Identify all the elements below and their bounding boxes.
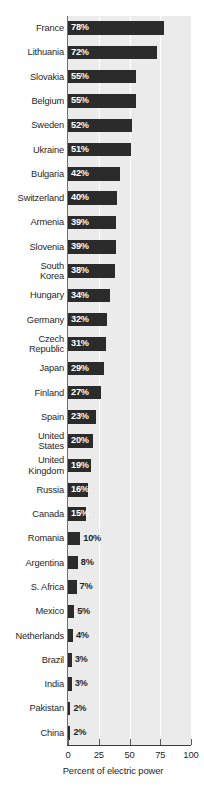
- x-axis-tickmark: [191, 739, 192, 745]
- bar-wrapper: 40%: [68, 186, 117, 210]
- bar-value-label: 78%: [68, 21, 89, 35]
- category-label: S. Africa: [0, 582, 64, 592]
- bar: 20%: [68, 434, 93, 448]
- bar-value-label: 52%: [68, 119, 89, 133]
- bar: 52%: [68, 119, 132, 133]
- bar-row: India3%: [0, 672, 204, 696]
- bar-value-label: 39%: [68, 216, 89, 230]
- bar-row: Slovenia39%: [0, 235, 204, 259]
- category-label: Armenia: [0, 217, 64, 227]
- bar-row: China2%: [0, 721, 204, 745]
- bar-wrapper: 5%: [68, 599, 90, 623]
- x-axis-title: Percent of electric power: [0, 765, 204, 776]
- bar-value-label: 42%: [68, 167, 89, 181]
- bar-wrapper: 15%: [68, 502, 86, 526]
- category-label: France: [0, 23, 64, 33]
- category-label: India: [0, 679, 64, 689]
- bar-value-label: 29%: [68, 362, 89, 376]
- bar-wrapper: 7%: [68, 575, 93, 599]
- bar-value-label: 3%: [72, 677, 88, 691]
- bar-row: Japan29%: [0, 356, 204, 380]
- category-label: Ukraine: [0, 145, 64, 155]
- bar-wrapper: 23%: [68, 405, 96, 429]
- bar-row: Bulgaria42%: [0, 162, 204, 186]
- bar-value-label: 55%: [68, 94, 89, 108]
- x-axis-tickmark: [99, 739, 100, 745]
- bar-wrapper: 27%: [68, 381, 101, 405]
- bar-value-label: 40%: [68, 191, 89, 205]
- bar-row: Lithuania72%: [0, 40, 204, 64]
- category-label: Russia: [0, 485, 64, 495]
- bar-wrapper: 72%: [68, 40, 157, 64]
- bar-wrapper: 38%: [68, 259, 115, 283]
- bar: 55%: [68, 94, 136, 108]
- bar-wrapper: 39%: [68, 235, 116, 259]
- bar-row: Pakistan2%: [0, 696, 204, 720]
- bar: 19%: [68, 459, 91, 473]
- bar: 72%: [68, 46, 157, 60]
- bar: 51%: [68, 143, 131, 157]
- x-axis-tickmark: [68, 739, 69, 745]
- bar-value-label: 51%: [68, 143, 89, 157]
- bar-wrapper: 2%: [68, 696, 86, 720]
- bar-value-label: 8%: [78, 556, 94, 570]
- bar: 34%: [68, 289, 110, 303]
- category-label: Romania: [0, 533, 64, 543]
- category-label: Canada: [0, 509, 64, 519]
- category-label: Pakistan: [0, 703, 64, 713]
- bar: 42%: [68, 167, 120, 181]
- category-label: Czech Republic: [0, 334, 64, 354]
- category-label: Slovakia: [0, 72, 64, 82]
- category-label: Bulgaria: [0, 169, 64, 179]
- bar-chart: France78%Lithuania72%Slovakia55%Belgium5…: [0, 0, 204, 793]
- bar-wrapper: 2%: [68, 721, 86, 745]
- bar-row: Netherlands4%: [0, 624, 204, 648]
- bar-row: Germany32%: [0, 308, 204, 332]
- bar: 78%: [68, 21, 164, 35]
- x-axis-tick-label: 100: [171, 749, 204, 760]
- bar-wrapper: 39%: [68, 210, 116, 234]
- bar-wrapper: 51%: [68, 138, 131, 162]
- bar-row: Sweden52%: [0, 113, 204, 137]
- category-label: China: [0, 728, 64, 738]
- category-label: Japan: [0, 363, 64, 373]
- bar: 40%: [68, 191, 117, 205]
- bar-value-label: 7%: [77, 580, 93, 594]
- bar-row: United Kingdom19%: [0, 453, 204, 477]
- category-label: Brazil: [0, 655, 64, 665]
- bar-wrapper: 8%: [68, 551, 94, 575]
- bar-wrapper: 3%: [68, 672, 88, 696]
- bar: 39%: [68, 240, 116, 254]
- bar: 23%: [68, 410, 96, 424]
- bar-wrapper: 34%: [68, 283, 110, 307]
- x-axis-line: [67, 745, 191, 746]
- bar-value-label: 55%: [68, 70, 89, 84]
- bar-row: Czech Republic31%: [0, 332, 204, 356]
- bar-row: Canada15%: [0, 502, 204, 526]
- category-label: Netherlands: [0, 631, 64, 641]
- bar-row: Spain23%: [0, 405, 204, 429]
- bar-row: France78%: [0, 16, 204, 40]
- bar-row: S. Africa7%: [0, 575, 204, 599]
- category-label: United Kingdom: [0, 455, 64, 475]
- bar-value-label: 38%: [68, 264, 89, 278]
- bar: [68, 556, 78, 570]
- bar-value-label: 19%: [68, 459, 89, 473]
- bar-wrapper: 32%: [68, 308, 107, 332]
- bar-value-label: 27%: [68, 386, 89, 400]
- bar-value-label: 2%: [70, 726, 86, 740]
- bar-value-label: 10%: [80, 532, 101, 546]
- bar-wrapper: 55%: [68, 89, 136, 113]
- bar-value-label: 2%: [70, 702, 86, 716]
- bar: 55%: [68, 70, 136, 84]
- bar-row: Switzerland40%: [0, 186, 204, 210]
- bar: 38%: [68, 264, 115, 278]
- category-label: Spain: [0, 412, 64, 422]
- bar-value-label: 23%: [68, 410, 89, 424]
- bar-row: Russia16%: [0, 478, 204, 502]
- bar-value-label: 32%: [68, 313, 89, 327]
- category-label: Germany: [0, 315, 64, 325]
- bar: 31%: [68, 337, 106, 351]
- category-label: Finland: [0, 388, 64, 398]
- category-label: South Korea: [0, 261, 64, 281]
